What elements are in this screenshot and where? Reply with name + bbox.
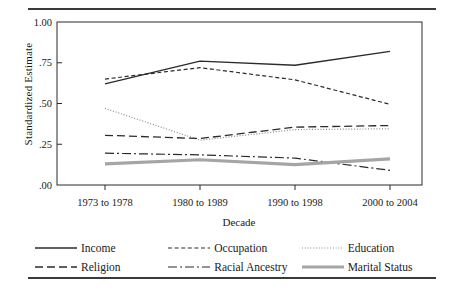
y-tick-label: .50 — [39, 98, 52, 109]
legend-item-racial-ancestry[interactable]: Racial Ancestry — [167, 259, 300, 275]
series-line-religion — [105, 126, 390, 139]
legend-label: Marital Status — [348, 261, 413, 273]
y-tick-label: .75 — [39, 57, 52, 68]
legend-swatch-education-icon — [301, 242, 345, 254]
x-axis-tick-marks — [105, 185, 390, 190]
legend-swatch-marital-status-icon — [301, 261, 345, 273]
legend-label: Income — [81, 242, 115, 254]
series-line-education — [105, 108, 390, 140]
y-tick-label: 1.00 — [34, 17, 52, 28]
series-line-marital-status — [105, 159, 390, 165]
line-chart-svg: 1.00.75.50.25.00 1973 to 19781980 to 198… — [0, 0, 464, 240]
x-tick-label: 1990 to 1998 — [267, 197, 322, 208]
legend-item-education[interactable]: Education — [301, 240, 434, 256]
x-tick-label: 1980 to 1989 — [172, 197, 227, 208]
x-axis-tick-labels: 1973 to 19781980 to 19891990 to 19982000… — [77, 197, 418, 208]
legend-swatch-religion-icon — [34, 261, 78, 273]
chart-legend: IncomeOccupationEducationReligionRacial … — [34, 240, 434, 278]
legend-swatch-racial-ancestry-icon — [167, 261, 211, 273]
legend-label: Racial Ancestry — [214, 261, 287, 273]
legend-swatch-income-icon — [34, 242, 78, 254]
legend-label: Education — [348, 242, 395, 254]
legend-item-marital-status[interactable]: Marital Status — [301, 259, 434, 275]
legend-item-religion[interactable]: Religion — [34, 259, 167, 275]
series-line-income — [105, 51, 390, 84]
legend-item-income[interactable]: Income — [34, 240, 167, 256]
chart-figure: Standardized Estimate 1.00.75.50.25.00 1… — [0, 0, 464, 290]
x-tick-label: 2000 to 2004 — [362, 197, 418, 208]
data-series-group — [105, 51, 390, 170]
legend-label: Religion — [81, 261, 121, 273]
y-tick-label: .00 — [39, 180, 52, 191]
legend-swatch-occupation-icon — [167, 242, 211, 254]
x-tick-label: 1973 to 1978 — [77, 197, 132, 208]
legend-label: Occupation — [214, 242, 267, 254]
legend-row: IncomeOccupationEducation — [34, 240, 434, 256]
legend-item-occupation[interactable]: Occupation — [167, 240, 300, 256]
x-axis-title: Decade — [223, 216, 256, 228]
y-axis-tick-labels: 1.00.75.50.25.00 — [34, 17, 52, 191]
y-axis-tick-marks — [57, 63, 62, 145]
y-tick-label: .25 — [39, 139, 52, 150]
legend-row: ReligionRacial AncestryMarital Status — [34, 259, 434, 275]
